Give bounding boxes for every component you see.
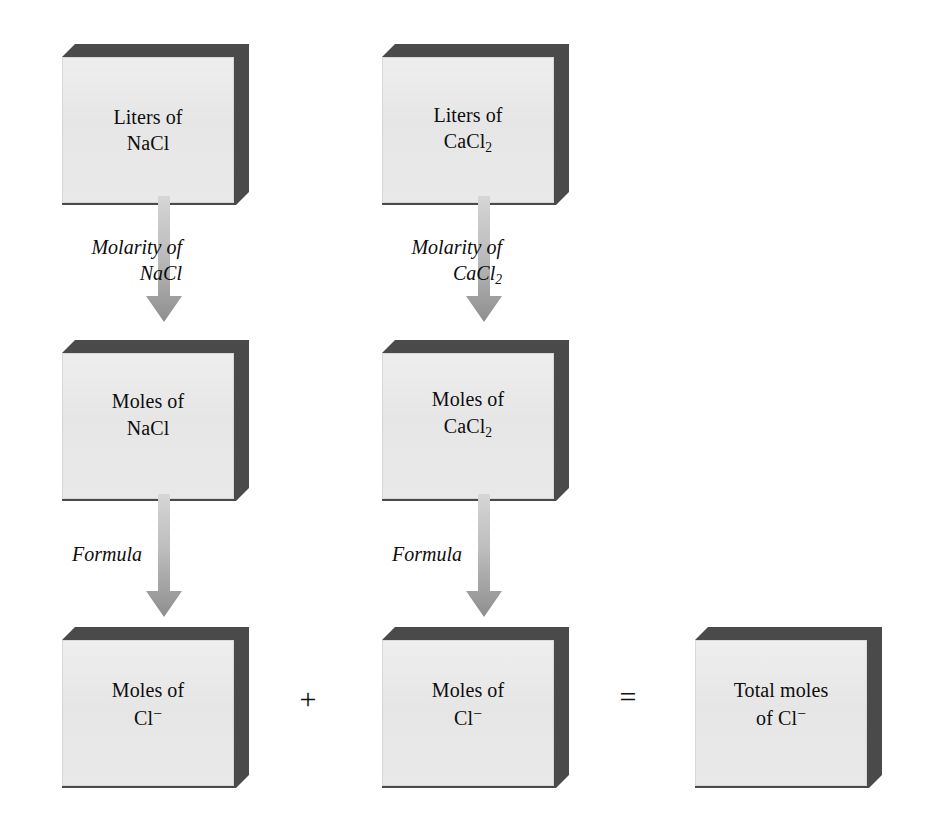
box-label-line2: CaCl2 [382,413,554,442]
arrow-formula-mid [462,494,506,622]
box-face: Liters of NaCl [62,57,234,203]
box-label-line1: Moles of [432,389,504,411]
arrow-label-molarity-nacl: Molarity of NaCl [62,234,182,286]
box-face: Liters of CaCl2 [382,57,554,203]
arrow-label-line1: Formula [72,543,142,565]
box-label-line1: Moles of [432,679,504,701]
box-moles-cl-left: Moles of Cl− [62,627,249,788]
operator-equals: = [611,682,645,712]
box-moles-cacl2: Moles of CaCl2 [382,340,569,501]
box-total-moles-cl: Total moles of Cl− [695,627,882,788]
box-label-charge: − [153,704,162,721]
arrow-label-line1: Molarity of [411,236,502,258]
box-label-line2: of Cl− [695,703,867,731]
arrow-label-molarity-cacl2: Molarity of CaCl2 [382,234,502,288]
operator-plus: + [291,684,325,714]
arrow-label-formula-left: Formula [42,541,142,567]
box-label: Moles of Cl− [382,677,554,731]
box-label: Total moles of Cl− [695,677,867,731]
box-label-charge: − [797,704,806,721]
box-label: Moles of Cl− [62,677,234,731]
box-face: Moles of CaCl2 [382,353,554,499]
box-label-line1: Liters of [433,104,502,126]
box-label: Liters of NaCl [62,104,234,157]
box-label-line1: Liters of [113,106,182,128]
box-label: Moles of NaCl [62,388,234,441]
arrow-label-line2: NaCl [62,260,182,286]
box-liters-cacl2: Liters of CaCl2 [382,44,569,205]
box-face: Moles of Cl− [382,640,554,786]
box-label-line1: Total moles [734,679,829,701]
box-label-subscript: 2 [485,141,492,156]
arrow-label-subscript: 2 [495,272,502,287]
box-face: Moles of NaCl [62,353,234,499]
arrow-label-formula-mid: Formula [362,541,462,567]
box-label-line2: Cl− [382,703,554,731]
arrow-label-line2: CaCl2 [382,260,502,288]
box-label: Liters of CaCl2 [382,102,554,157]
box-label-line2: Cl− [62,703,234,731]
arrow-label-line1: Formula [392,543,462,565]
box-label-line1: Moles of [112,390,184,412]
box-label-line2: NaCl [62,130,234,156]
box-liters-nacl: Liters of NaCl [62,44,249,205]
box-face: Moles of Cl− [62,640,234,786]
box-label-subscript: 2 [485,425,492,440]
box-label-line1: Moles of [112,679,184,701]
box-moles-cl-mid: Moles of Cl− [382,627,569,788]
box-face: Total moles of Cl− [695,640,867,786]
arrow-label-line1: Molarity of [91,236,182,258]
flowchart-canvas: Liters of NaCl Liters of CaCl2 [0,0,936,822]
box-label-charge: − [473,704,482,721]
box-label-line2: NaCl [62,414,234,440]
arrow-formula-left [142,494,186,622]
box-label: Moles of CaCl2 [382,387,554,442]
box-moles-nacl: Moles of NaCl [62,340,249,501]
box-label-line2: CaCl2 [382,129,554,158]
